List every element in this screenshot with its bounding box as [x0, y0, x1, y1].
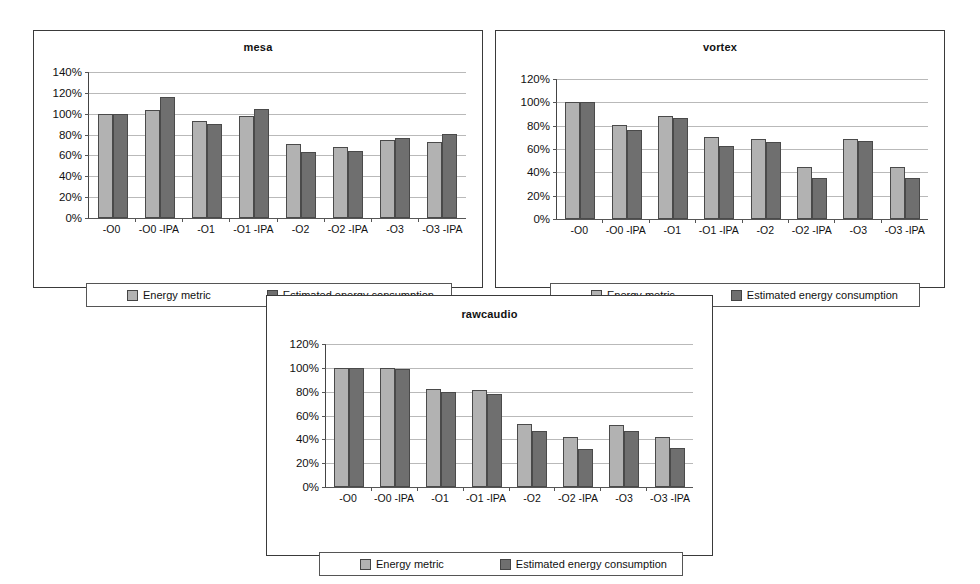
chart-panel-mesa: mesa 0%20%40%60%80%100%120%140% -O0-O0 -… — [33, 30, 483, 288]
y-axis-label: 0% — [65, 212, 82, 224]
legend-label-energy-metric: Energy metric — [143, 289, 211, 301]
y-axis-tick — [553, 219, 557, 220]
y-axis-label: 120% — [521, 73, 550, 85]
bar-energy-metric — [843, 139, 858, 220]
y-axis-label: 60% — [59, 149, 82, 161]
x-axis-label: -O1 -IPA — [463, 492, 509, 504]
bar-estimated-energy — [627, 130, 642, 219]
bar-estimated-energy — [254, 109, 269, 219]
x-axis-tick — [182, 218, 183, 222]
bar-group — [325, 72, 372, 218]
bar-energy-metric — [797, 167, 812, 220]
x-axis-tick — [649, 219, 650, 223]
bar-group — [230, 72, 277, 218]
bar-energy-metric — [334, 368, 349, 487]
x-axis-label: -O1 — [649, 224, 696, 236]
x-axis-label: -O2 — [277, 223, 324, 235]
plot-area-vortex: 0%20%40%60%80%100%120% — [556, 79, 928, 220]
x-axis-label: -O2 — [742, 224, 789, 236]
bar-group — [372, 344, 418, 487]
x-axis-tick — [788, 219, 789, 223]
bar-energy-metric — [380, 368, 395, 487]
y-axis-label: 20% — [296, 457, 319, 469]
y-axis-tick — [322, 487, 326, 488]
x-axis-label: -O3 -IPA — [419, 223, 466, 235]
bar-energy-metric — [563, 437, 578, 487]
bar-energy-metric — [565, 102, 580, 219]
bar-estimated-energy — [624, 431, 639, 487]
bar-group — [557, 79, 603, 219]
bar-group — [601, 344, 647, 487]
x-axis-label: -O3 — [835, 224, 882, 236]
bar-energy-metric — [704, 137, 719, 219]
legend-rawcaudio: Energy metric Estimated energy consumpti… — [319, 552, 683, 576]
bar-groups-mesa — [89, 72, 466, 218]
x-axis-label: -O3 — [372, 223, 419, 235]
bar-energy-metric — [612, 125, 627, 220]
bar-groups-vortex — [557, 79, 928, 219]
y-axis-tick — [85, 218, 89, 219]
x-axis-tick — [646, 487, 647, 491]
x-axis-tick — [742, 219, 743, 223]
bar-energy-metric — [655, 437, 670, 487]
x-axis-tick — [418, 218, 419, 222]
legend-item-estimated-energy: Estimated energy consumption — [731, 289, 898, 301]
bar-group — [647, 344, 693, 487]
bar-estimated-energy — [766, 142, 781, 219]
x-axis-tick — [834, 219, 835, 223]
bar-energy-metric — [239, 116, 254, 218]
bar-energy-metric — [426, 389, 441, 487]
bar-estimated-energy — [301, 152, 316, 218]
gridline — [557, 219, 928, 220]
y-axis-label: 40% — [59, 170, 82, 182]
bar-group — [650, 79, 696, 219]
x-axis-tick — [371, 487, 372, 491]
x-axis-label: -O2 -IPA — [324, 223, 371, 235]
x-axis-tick — [417, 487, 418, 491]
bar-energy-metric — [192, 121, 207, 218]
x-axis-tick — [324, 218, 325, 222]
x-axis-tick — [554, 487, 555, 491]
x-axis-label: -O0 — [325, 492, 371, 504]
x-axis-label: -O1 -IPA — [696, 224, 743, 236]
bar-estimated-energy — [207, 124, 222, 218]
x-axis-label: -O3 -IPA — [647, 492, 693, 504]
x-axis-tick — [277, 218, 278, 222]
x-axis-label: -O0 — [88, 223, 135, 235]
bar-energy-metric — [286, 144, 301, 218]
y-axis-label: 20% — [527, 190, 550, 202]
bar-estimated-energy — [670, 448, 685, 487]
bar-group — [603, 79, 649, 219]
bar-energy-metric — [609, 425, 624, 487]
x-axis-label: -O0 — [556, 224, 603, 236]
x-axis-label: -O2 -IPA — [555, 492, 601, 504]
legend-swatch-estimated-energy — [500, 559, 511, 570]
bar-group — [278, 72, 325, 218]
chart-title-rawcaudio: rawcaudio — [267, 308, 712, 320]
x-axis-tick — [463, 487, 464, 491]
bar-estimated-energy — [858, 141, 873, 219]
x-axis-tick — [602, 219, 603, 223]
bar-group — [743, 79, 789, 219]
x-axis-tick — [229, 218, 230, 222]
x-axis-tick — [695, 219, 696, 223]
y-axis-label: 100% — [53, 108, 82, 120]
bar-estimated-energy — [348, 151, 363, 218]
x-axis-tick — [881, 219, 882, 223]
legend-label-estimated-energy: Estimated energy consumption — [747, 289, 898, 301]
bar-estimated-energy — [580, 102, 595, 219]
legend-label-estimated-energy: Estimated energy consumption — [516, 558, 667, 570]
bar-energy-metric — [427, 142, 442, 218]
chart-panel-rawcaudio: rawcaudio 0%20%40%60%80%100%120% -O0-O0 … — [266, 295, 713, 556]
bar-estimated-energy — [487, 394, 502, 487]
legend-label-energy-metric: Energy metric — [376, 558, 444, 570]
y-axis-label: 60% — [527, 143, 550, 155]
x-axis-label: -O0 -IPA — [603, 224, 650, 236]
x-axis-label: -O3 -IPA — [882, 224, 929, 236]
legend-item-estimated-energy: Estimated energy consumption — [500, 558, 667, 570]
y-axis-label: 80% — [59, 129, 82, 141]
bar-group — [882, 79, 928, 219]
bar-estimated-energy — [578, 449, 593, 487]
legend-item-energy-metric: Energy metric — [127, 289, 211, 301]
bar-groups-rawcaudio — [326, 344, 693, 487]
